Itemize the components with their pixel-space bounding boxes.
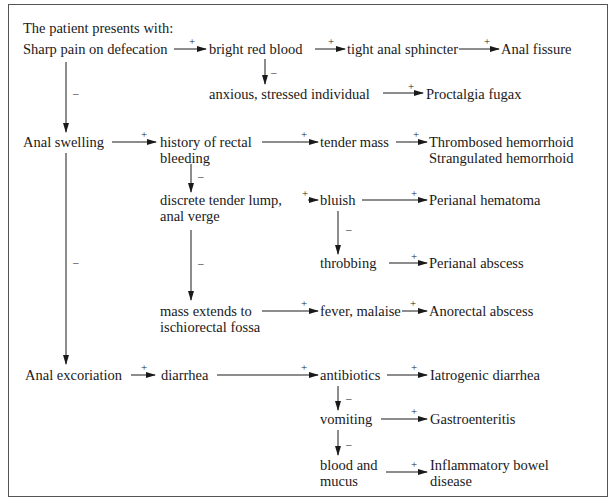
edge-sign-minus: –: [346, 224, 352, 235]
edge-sign-minus: –: [346, 439, 352, 450]
node-bluish: bluish: [320, 192, 355, 208]
edge-sign-minus: –: [271, 67, 277, 78]
node-tender-mass: tender mass: [320, 134, 389, 150]
node-discrete-lump-line2: anal verge: [160, 208, 220, 224]
edge-sign-plus: +: [189, 36, 195, 47]
edge-sign-plus: +: [411, 362, 417, 373]
node-thrombosed: Thrombosed hemorrhoid: [429, 134, 574, 150]
node-anxious: anxious, stressed individual: [209, 86, 370, 102]
flowchart-arrows: [0, 0, 616, 504]
edge-sign-minus: –: [73, 88, 79, 99]
node-tight-sphincter: tight anal sphincter: [347, 41, 458, 57]
node-bright-red-blood: bright red blood: [209, 41, 302, 57]
node-history-rectal-line2: bleeding: [160, 150, 210, 166]
edge-sign-plus: +: [411, 251, 417, 262]
edge-sign-plus: +: [141, 362, 147, 373]
edge-sign-plus: +: [411, 459, 417, 470]
node-throbbing: throbbing: [320, 255, 376, 271]
edge-sign-plus: +: [301, 362, 307, 373]
edge-sign-minus: –: [346, 393, 352, 404]
edge-sign-plus: +: [410, 298, 416, 309]
node-mass-extends-line2: ischiorectal fossa: [160, 319, 260, 335]
edge-sign-plus: +: [484, 36, 490, 47]
node-sharp-pain: Sharp pain on defecation: [23, 41, 168, 57]
edge-sign-plus: +: [301, 298, 307, 309]
node-strangulated: Strangulated hemorrhoid: [429, 150, 574, 166]
node-mass-extends-line1: mass extends to: [160, 303, 252, 319]
edge-sign-minus: –: [198, 171, 204, 182]
node-diarrhea: diarrhea: [161, 367, 209, 383]
node-perianal-hematoma: Perianal hematoma: [429, 192, 541, 208]
node-fever: fever, malaise: [320, 303, 401, 319]
node-antibiotics: antibiotics: [320, 367, 380, 383]
node-gastroenteritis: Gastroenteritis: [430, 411, 515, 427]
node-anorectal-abscess: Anorectal abscess: [429, 303, 533, 319]
edge-sign-plus: +: [408, 81, 414, 92]
node-history-rectal-line1: history of rectal: [160, 134, 252, 150]
node-proctalgia: Proctalgia fugax: [426, 86, 521, 102]
node-vomiting: vomiting: [320, 411, 372, 427]
edge-sign-minus: –: [73, 257, 79, 268]
node-perianal-abscess: Perianal abscess: [429, 255, 524, 271]
edge-sign-minus: –: [198, 258, 204, 269]
edge-sign-plus: +: [413, 129, 419, 140]
edge-sign-plus: +: [302, 188, 308, 199]
diagram-title: The patient presents with:: [23, 20, 173, 36]
edge-sign-plus: +: [328, 36, 334, 47]
node-ibd-line2: disease: [430, 473, 472, 489]
node-anal-fissure: Anal fissure: [501, 41, 571, 57]
node-blood-mucus-line2: mucus: [320, 473, 358, 489]
node-anal-excoriation: Anal excoriation: [25, 367, 122, 383]
edge-sign-plus: +: [141, 129, 147, 140]
edge-sign-plus: +: [301, 129, 307, 140]
node-blood-mucus-line1: blood and: [320, 457, 378, 473]
node-discrete-lump-line1: discrete tender lump,: [160, 192, 282, 208]
node-anal-swelling: Anal swelling: [23, 134, 104, 150]
edge-sign-plus: +: [411, 406, 417, 417]
edge-sign-plus: +: [411, 188, 417, 199]
node-ibd-line1: Inflammatory bowel: [430, 457, 549, 473]
node-iatrogenic: Iatrogenic diarrhea: [430, 367, 540, 383]
